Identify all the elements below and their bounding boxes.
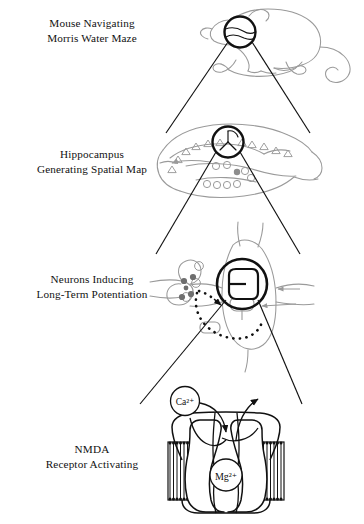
place-cell-circles [203, 161, 254, 188]
mouse-outline [200, 9, 350, 82]
panel-nmda-art: Mg²⁺ Ca²⁺ [168, 387, 284, 514]
magnesium-ion-label: Mg²⁺ [215, 471, 237, 482]
figure-canvas: Mouse Navigating Morris Water Maze Hippo… [0, 0, 364, 524]
focus-circle-mouse-detail [226, 28, 256, 40]
magnification-lines-hippocampus-to-neurons [156, 152, 300, 254]
receptor-pointer-arrows [262, 289, 300, 306]
magnification-lines-mouse-to-hippocampus [166, 42, 310, 133]
calcium-ion-label: Ca²⁺ [176, 397, 194, 407]
focus-circle-mouse-head [225, 17, 256, 48]
focus-circle-hippocampus-detail [220, 131, 238, 150]
panel-neurons-art [140, 222, 314, 404]
active-place-cell [234, 169, 240, 175]
figure-artwork: Mg²⁺ Ca²⁺ [0, 0, 364, 524]
magnification-lines-neurons-to-nmda [140, 300, 302, 404]
panel-hippocampus-art [156, 124, 322, 254]
presynaptic-terminal-outline [150, 260, 201, 305]
panel-mouse-art [166, 9, 350, 133]
